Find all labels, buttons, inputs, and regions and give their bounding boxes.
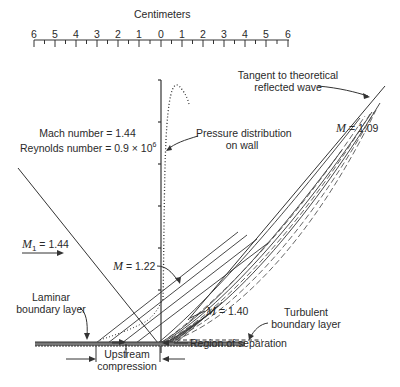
pressure-distribution-label: Pressure distribution on wall: [196, 127, 288, 151]
pressure-leader: [167, 136, 198, 150]
tangent-label: Tangent to theoretical reflected wave: [228, 69, 348, 93]
turbulent-label-line1: Turbulent: [270, 306, 342, 318]
scale-title: Centimeters: [134, 8, 190, 20]
pressure-label-line1: Pressure distribution: [196, 127, 288, 139]
incident-shock: [18, 168, 158, 343]
upstream-compression-label: Upstream compression: [96, 348, 158, 372]
scale-tick-label: 5: [49, 28, 61, 40]
mach-109-label: M = 1.09: [336, 122, 378, 134]
scale-tick-label: 1: [176, 28, 188, 40]
freestream-mach-label: M1 = 1.44: [22, 238, 69, 255]
dim-arrow-1: [89, 356, 96, 362]
mach-number-text: Mach number = 1.44: [20, 127, 155, 139]
laminar-label-line2: boundary layer: [14, 303, 88, 315]
scale-tick-label: 2: [197, 28, 209, 40]
tangent-label-line2: reflected wave: [228, 81, 348, 93]
upstream-label-line1: Upstream: [96, 348, 158, 360]
scale-tick-label: 0: [155, 28, 167, 40]
scale-tick-label: 5: [260, 28, 272, 40]
reynolds-number-text: Reynolds number = 0.9 × 106: [20, 139, 155, 154]
centimeter-scale: [34, 40, 289, 47]
scale-tick-label: 1: [133, 28, 145, 40]
pressure-distribution-upstream: [100, 300, 162, 340]
laminar-label-line1: Laminar: [14, 291, 88, 303]
scale-tick-label: 3: [91, 28, 103, 40]
turbulent-boundary-layer-label: Turbulent boundary layer: [270, 306, 342, 330]
scale-tick-label: 6: [28, 28, 40, 40]
scale-tick-label: 4: [239, 28, 251, 40]
laminar-boundary-layer-label: Laminar boundary layer: [14, 291, 88, 315]
flow-conditions-label: Mach number = 1.44 Reynolds number = 0.9…: [20, 127, 155, 154]
tangent-label-line1: Tangent to theoretical: [228, 69, 348, 81]
region-of-separation-label: Region of separation: [190, 337, 287, 349]
turbulent-label-line2: boundary layer: [270, 318, 342, 330]
pressure-distribution-curve: [163, 85, 189, 300]
dim-arrow-4: [162, 356, 169, 362]
scale-major-ticks: [34, 40, 288, 47]
pressure-label-line2: on wall: [196, 139, 288, 151]
pressure-axis: [158, 80, 161, 353]
m122-leader: [157, 266, 178, 281]
scale-tick-label: 2: [112, 28, 124, 40]
scale-tick-label: 3: [218, 28, 230, 40]
scale-tick-label: 6: [282, 28, 294, 40]
mach-140-label: M = 1.40: [206, 305, 248, 317]
upstream-label-line2: compression: [96, 360, 158, 372]
scale-tick-label: 4: [70, 28, 82, 40]
mach-122-label: M = 1.22: [113, 260, 155, 272]
